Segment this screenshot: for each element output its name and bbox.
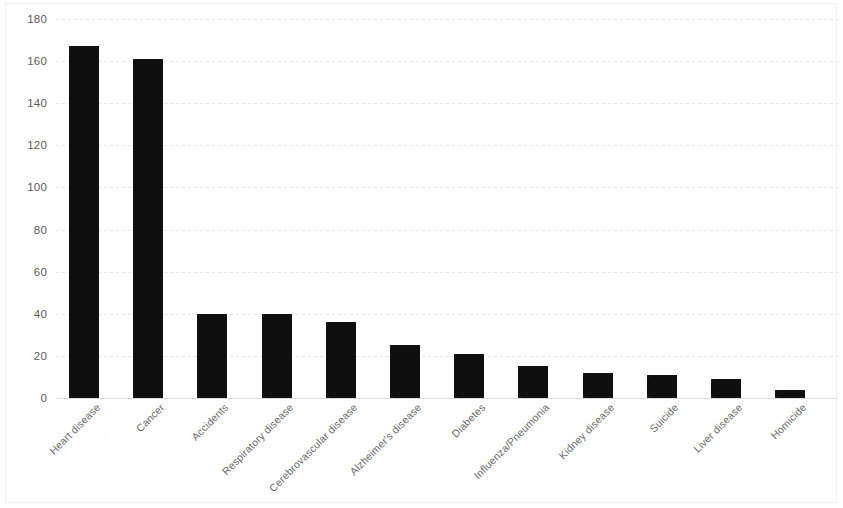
x-axis-category-labels: Heart diseaseCancerAccidentsRespiratory …	[56, 401, 838, 505]
y-axis-tick-label: 60	[34, 266, 47, 278]
x-axis-category-label: Kidney disease	[556, 401, 616, 461]
bar	[262, 314, 292, 398]
y-axis-tick-label: 40	[34, 308, 47, 320]
bar-series	[56, 19, 838, 398]
bar	[326, 322, 356, 398]
bar	[197, 314, 227, 398]
y-axis-tick-label: 180	[27, 13, 47, 25]
bar	[775, 390, 805, 398]
x-axis-category-label: Heart disease	[47, 401, 103, 457]
bar	[390, 345, 420, 398]
bar	[518, 366, 548, 398]
y-axis-tick-label: 20	[34, 350, 47, 362]
x-axis-category-label: Accidents	[189, 401, 231, 443]
x-axis-category-label: Cancer	[134, 401, 167, 434]
bar	[69, 46, 99, 398]
y-axis-tick-label: 140	[27, 97, 47, 109]
y-axis-tick-label: 100	[27, 181, 47, 193]
bar	[133, 59, 163, 398]
x-axis-category-label: Liver disease	[691, 401, 745, 455]
y-axis-tick-label: 120	[27, 139, 47, 151]
y-axis-tick-label: 0	[40, 392, 47, 404]
bar	[454, 354, 484, 398]
x-axis-category-label: Alzheimer's disease	[347, 401, 423, 477]
x-axis-category-label: Diabetes	[449, 401, 488, 440]
x-axis-baseline	[56, 398, 838, 399]
bar	[647, 375, 677, 398]
chart-frame: 020406080100120140160180 Heart diseaseCa…	[5, 3, 837, 503]
x-axis-category-label: Suicide	[647, 401, 681, 435]
x-axis-category-label: Respiratory disease	[219, 401, 295, 477]
y-axis-tick-label: 160	[27, 55, 47, 67]
plot-area: 020406080100120140160180	[56, 19, 838, 398]
bar	[711, 379, 741, 398]
bar	[583, 373, 613, 398]
y-axis-tick-label: 80	[34, 224, 47, 236]
x-axis-category-label: Homicide	[768, 401, 808, 441]
